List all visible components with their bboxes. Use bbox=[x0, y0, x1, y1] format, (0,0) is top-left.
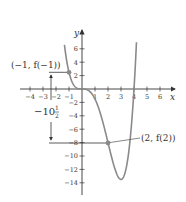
point-b-marker bbox=[106, 141, 111, 146]
x-tick-label: 6 bbox=[158, 93, 162, 101]
x-tick-label: 3 bbox=[119, 93, 123, 101]
y-tick-label: −2 bbox=[68, 99, 78, 107]
x-tick-label: −2 bbox=[51, 93, 61, 101]
y-tick-label: 2 bbox=[74, 72, 78, 80]
label-point-b: (2, f(2)) bbox=[141, 133, 176, 143]
x-tick-label: −3 bbox=[38, 93, 48, 101]
label-point-a: (−1, f(−1)) bbox=[11, 60, 61, 70]
y-tick-label: −10 bbox=[64, 152, 78, 160]
y-tick-label: −12 bbox=[64, 166, 78, 174]
difference-whole: −10 bbox=[34, 106, 55, 117]
x-tick-label: −4 bbox=[25, 93, 35, 101]
y-tick-label: −6 bbox=[68, 126, 78, 134]
y-tick-label: 6 bbox=[74, 45, 78, 53]
y-tick-label: 4 bbox=[74, 59, 78, 67]
leader-line-point-b bbox=[110, 138, 140, 143]
function-graph: −4−3−2−1123456 642−2−4−6−8−10−12−14 x y … bbox=[0, 0, 186, 202]
x-axis-label: x bbox=[170, 92, 175, 102]
y-tick-label: −4 bbox=[68, 112, 78, 120]
y-tick-label: −14 bbox=[64, 179, 78, 187]
difference-denominator: 2 bbox=[55, 112, 59, 119]
x-tick-label: 2 bbox=[106, 93, 110, 101]
y-axis-label: y bbox=[73, 28, 80, 38]
point-a-marker bbox=[67, 70, 72, 75]
difference-numerator: 1 bbox=[55, 104, 59, 111]
x-tick-label: 5 bbox=[145, 93, 149, 101]
difference-label: −10 1 2 bbox=[34, 104, 59, 119]
